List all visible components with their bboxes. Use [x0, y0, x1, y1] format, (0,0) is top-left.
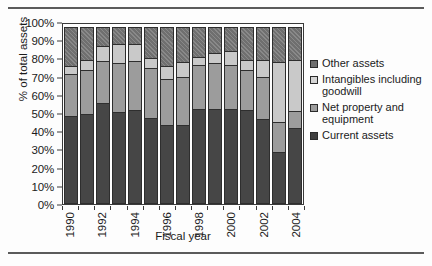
bar-segment[interactable]: [256, 77, 270, 120]
x-tick-mark: [272, 206, 273, 210]
x-tick-mark: [175, 206, 176, 210]
bar-segment[interactable]: [96, 27, 110, 47]
bar-1997[interactable]: [175, 24, 191, 204]
x-axis-title: Fiscal year: [62, 230, 304, 242]
bar-segment[interactable]: [224, 51, 238, 65]
bar-segment[interactable]: [240, 70, 254, 111]
legend-item[interactable]: Net property and equipment: [310, 101, 428, 126]
top-rule: [8, 7, 424, 9]
bar-1992[interactable]: [95, 24, 111, 204]
bar-segment[interactable]: [208, 27, 222, 54]
bar-2004[interactable]: [287, 24, 303, 204]
legend-item[interactable]: Intangibles including goodwill: [310, 73, 428, 98]
x-tick-mark: [191, 206, 192, 210]
bar-segment[interactable]: [160, 125, 174, 204]
y-tick-label: 10%: [32, 181, 54, 193]
bar-1991[interactable]: [79, 24, 95, 204]
bar-segment[interactable]: [192, 27, 206, 58]
bar-segment[interactable]: [288, 60, 302, 112]
bar-segment[interactable]: [64, 74, 78, 117]
bar-segment[interactable]: [256, 27, 270, 61]
bar-segment[interactable]: [144, 68, 158, 118]
bar-segment[interactable]: [64, 116, 78, 204]
y-axis-title: % of total assets: [17, 0, 29, 129]
bar-2000[interactable]: [223, 24, 239, 204]
bar-segment[interactable]: [288, 128, 302, 204]
bar-segment[interactable]: [112, 112, 126, 204]
bar-segment[interactable]: [288, 111, 302, 129]
bar-2001[interactable]: [239, 24, 255, 204]
bar-segment[interactable]: [128, 27, 142, 45]
bar-segment[interactable]: [160, 79, 174, 126]
bar-segment[interactable]: [224, 109, 238, 204]
legend-swatch-icon: [310, 76, 318, 84]
bar-2003[interactable]: [271, 24, 287, 204]
bar-segment[interactable]: [224, 27, 238, 52]
bar-segment[interactable]: [96, 46, 110, 62]
x-tick-mark: [207, 206, 208, 210]
bar-group: [63, 24, 303, 204]
y-tick-label: 50%: [32, 108, 54, 120]
bar-segment[interactable]: [80, 70, 94, 115]
bar-1995[interactable]: [143, 24, 159, 204]
bar-segment[interactable]: [176, 125, 190, 204]
bar-1999[interactable]: [207, 24, 223, 204]
bar-segment[interactable]: [80, 114, 94, 204]
plot-area: [62, 23, 304, 205]
bar-segment[interactable]: [192, 109, 206, 204]
bar-segment[interactable]: [224, 65, 238, 110]
chart-figure: 100%90%80%70%60%50%40%30%20%10%0% % of t…: [0, 0, 432, 266]
y-axis: 100%90%80%70%60%50%40%30%20%10%0%: [0, 23, 62, 205]
y-tick-label: 40%: [32, 126, 54, 138]
bar-segment[interactable]: [144, 27, 158, 59]
bar-segment[interactable]: [128, 61, 142, 111]
legend-item[interactable]: Other assets: [310, 57, 428, 70]
y-tick-label: 30%: [32, 144, 54, 156]
legend-label: Net property and equipment: [322, 101, 428, 126]
bar-2002[interactable]: [255, 24, 271, 204]
bar-segment[interactable]: [288, 27, 302, 61]
y-tick-label: 20%: [32, 163, 54, 175]
bar-segment[interactable]: [64, 27, 78, 67]
bar-segment[interactable]: [112, 27, 126, 45]
bar-segment[interactable]: [256, 119, 270, 204]
bar-segment[interactable]: [112, 44, 126, 64]
bar-segment[interactable]: [272, 122, 286, 153]
bar-segment[interactable]: [160, 27, 174, 67]
bar-segment[interactable]: [272, 152, 286, 204]
x-tick-mark: [78, 206, 79, 210]
bar-segment[interactable]: [208, 109, 222, 204]
bar-segment[interactable]: [176, 62, 190, 78]
bar-segment[interactable]: [208, 63, 222, 110]
bar-segment[interactable]: [256, 60, 270, 78]
bar-1994[interactable]: [127, 24, 143, 204]
bar-segment[interactable]: [96, 61, 110, 104]
bar-segment[interactable]: [80, 27, 94, 61]
bar-1990[interactable]: [63, 24, 79, 204]
bar-segment[interactable]: [128, 44, 142, 62]
bar-segment[interactable]: [272, 27, 286, 63]
bar-segment[interactable]: [144, 118, 158, 204]
bar-1993[interactable]: [111, 24, 127, 204]
bar-segment[interactable]: [240, 27, 254, 61]
bar-segment[interactable]: [112, 63, 126, 113]
y-tick-label: 60%: [32, 90, 54, 102]
bar-segment[interactable]: [176, 27, 190, 63]
bottom-rule: [8, 252, 424, 254]
bar-1996[interactable]: [159, 24, 175, 204]
bar-segment[interactable]: [176, 77, 190, 126]
chart-legend: Other assetsIntangibles including goodwi…: [310, 57, 428, 144]
bar-segment[interactable]: [96, 103, 110, 204]
bar-segment[interactable]: [272, 62, 286, 123]
bar-segment[interactable]: [160, 66, 174, 80]
legend-swatch-icon: [310, 104, 318, 112]
bar-1998[interactable]: [191, 24, 207, 204]
bar-segment[interactable]: [240, 110, 254, 204]
x-tick-mark: [223, 206, 224, 210]
legend-swatch-icon: [310, 60, 318, 68]
legend-item[interactable]: Current assets: [310, 129, 428, 142]
y-tick-label: 80%: [32, 53, 54, 65]
bar-segment[interactable]: [128, 110, 142, 204]
bar-segment[interactable]: [192, 65, 206, 110]
x-tick-mark: [304, 206, 305, 210]
